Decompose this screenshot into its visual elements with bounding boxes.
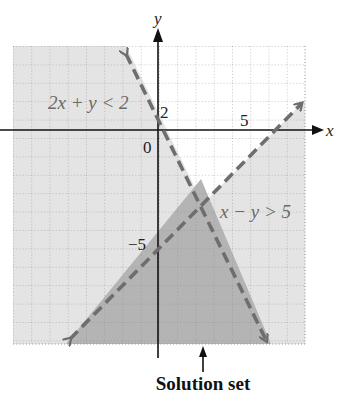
origin-label: 0 <box>143 138 152 157</box>
tick-label-y2: 2 <box>160 103 169 122</box>
grid <box>13 46 306 345</box>
solution-pointer-arrow-icon <box>199 346 207 357</box>
x-axis-label: x <box>325 121 334 140</box>
inequality-1-label: 2x + y < 2 <box>48 92 129 113</box>
solution-set-label: Solution set <box>156 373 251 394</box>
tick-label-ym5: −5 <box>128 235 146 254</box>
tick-label-x5: 5 <box>240 111 249 130</box>
x-axis-arrow-icon <box>312 125 324 135</box>
y-axis-arrow-icon <box>153 28 163 42</box>
graph: y x 0 5 2 −5 2x + y < 2 x − y > 5 Soluti… <box>0 0 337 403</box>
inequality-2-label: x − y > 5 <box>219 201 291 222</box>
y-axis-label: y <box>152 9 162 28</box>
